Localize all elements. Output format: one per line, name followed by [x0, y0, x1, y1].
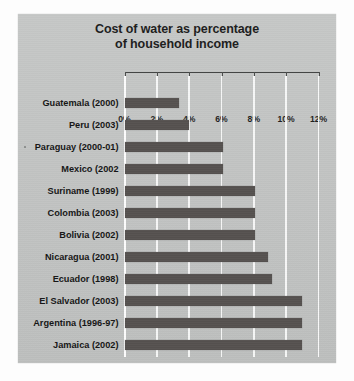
category-label: Guatemala (2000)	[18, 98, 119, 108]
category-label: Peru (2003)	[18, 120, 119, 130]
category-label: Mexico (2002	[18, 164, 119, 174]
category-label: Argentina (1996-97)	[18, 318, 119, 328]
category-label: Paraguay (2000-01)	[18, 142, 119, 152]
category-label-wrap: Colombia (2003)	[18, 208, 119, 218]
bar	[125, 252, 269, 262]
category-label: Bolivia (2002)	[18, 230, 119, 240]
category-label-wrap: Paraguay (2000-01)	[18, 142, 119, 152]
bar-row: Suriname (1999)	[125, 180, 319, 202]
category-label-wrap: Jamaica (2002)	[18, 340, 119, 350]
bar	[125, 164, 224, 174]
category-label: Nicaragua (2001)	[18, 252, 119, 262]
chart-title-line-1: Cost of water as percentage	[18, 22, 336, 37]
category-label-wrap: Guatemala (2000)	[18, 98, 119, 108]
chart-panel: Cost of water as percentage of household…	[18, 14, 336, 363]
bar-row: Ecuador (1998)	[125, 268, 319, 290]
category-label: Colombia (2003)	[18, 208, 119, 218]
bar-row: Peru (2003)	[125, 114, 319, 136]
chart-title-line-2: of household income	[18, 37, 336, 52]
bar-row: Bolivia (2002)	[125, 224, 319, 246]
category-label: Ecuador (1998)	[18, 274, 119, 284]
category-label: El Salvador (2003)	[18, 296, 119, 306]
plot-area: 0%2%4%6%8%10%12% Guatemala (2000)Peru (2…	[125, 72, 319, 357]
bar	[125, 274, 272, 284]
scan-speck	[24, 146, 26, 148]
category-label-wrap: El Salvador (2003)	[18, 296, 119, 306]
bar	[125, 208, 256, 218]
bar	[125, 98, 180, 108]
bar-row: Mexico (2002	[125, 158, 319, 180]
bar-row: El Salvador (2003)	[125, 290, 319, 312]
bar	[125, 318, 303, 328]
category-label-wrap: Bolivia (2002)	[18, 230, 119, 240]
bar	[125, 230, 256, 240]
category-label: Suriname (1999)	[18, 186, 119, 196]
category-label-wrap: Suriname (1999)	[18, 186, 119, 196]
category-label-wrap: Ecuador (1998)	[18, 274, 119, 284]
page-background: Cost of water as percentage of household…	[0, 0, 354, 381]
bar	[125, 142, 224, 152]
bar-row: Colombia (2003)	[125, 202, 319, 224]
category-label-wrap: Mexico (2002	[18, 164, 119, 174]
bar	[125, 186, 256, 196]
bar	[125, 296, 303, 306]
bar-row: Nicaragua (2001)	[125, 246, 319, 268]
bar	[125, 120, 190, 130]
chart-title: Cost of water as percentage of household…	[18, 22, 336, 51]
bar-row: Jamaica (2002)	[125, 334, 319, 356]
category-label-wrap: Peru (2003)	[18, 120, 119, 130]
category-label-wrap: Nicaragua (2001)	[18, 252, 119, 262]
bar	[125, 340, 303, 350]
bar-row: Paraguay (2000-01)	[125, 136, 319, 158]
category-label-wrap: Argentina (1996-97)	[18, 318, 119, 328]
bar-row: Argentina (1996-97)	[125, 312, 319, 334]
category-label: Jamaica (2002)	[18, 340, 119, 350]
bar-row: Guatemala (2000)	[125, 92, 319, 114]
